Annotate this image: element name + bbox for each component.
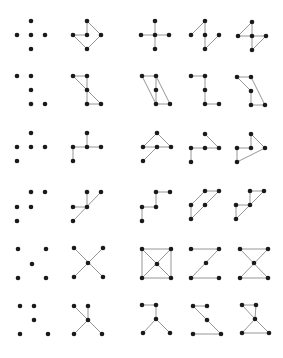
graph-vertex — [140, 247, 145, 252]
graph-vertex — [250, 34, 255, 39]
graph-vertex — [153, 33, 158, 38]
graph-edge — [73, 35, 87, 49]
graph-vertex — [85, 205, 90, 210]
graph-vertex — [189, 146, 194, 151]
graph-vertex — [100, 332, 105, 337]
graph-vertex — [266, 276, 271, 281]
panel-r3-c4 — [189, 132, 222, 165]
graph-vertex — [30, 262, 35, 267]
panel-r4-c2 — [71, 190, 104, 224]
panel-r3-c1 — [15, 131, 48, 164]
panel-r5-c4 — [189, 247, 222, 281]
graph-vertex — [16, 247, 21, 252]
graph-vertex — [71, 74, 76, 79]
graph-vertex — [217, 189, 222, 194]
graph-vertex — [18, 304, 23, 309]
graph-vertex — [217, 247, 222, 252]
graph-edge — [251, 134, 265, 148]
graph-vertex — [44, 247, 49, 252]
graph-vertex — [29, 33, 34, 38]
graph-vertex — [203, 189, 208, 194]
graph-edge — [255, 319, 269, 333]
panel-r2-c1 — [15, 74, 48, 107]
graph-vertex — [101, 275, 106, 280]
graph-vertex — [29, 88, 34, 93]
graph-vertex — [155, 262, 160, 267]
graph-vertex — [141, 159, 146, 164]
graph-edge — [74, 320, 88, 334]
graph-vertex — [72, 275, 77, 280]
graph-vertex — [15, 74, 20, 79]
graph-edge — [143, 319, 156, 333]
graph-vertex — [168, 102, 173, 107]
graph-vertex — [154, 190, 159, 195]
graph-edge — [205, 35, 219, 49]
graph-vertex — [86, 304, 91, 309]
graph-vertex — [248, 203, 253, 208]
graph-vertex — [141, 145, 146, 150]
graph-vertex — [238, 247, 243, 252]
panel-r1-c4 — [189, 19, 222, 52]
graph-vertex — [203, 132, 208, 137]
graph-vertex — [234, 217, 239, 222]
graph-vertex — [203, 203, 208, 208]
graph-vertex — [249, 103, 254, 108]
panel-r3-c3 — [141, 131, 174, 164]
graph-vertex — [189, 203, 194, 208]
graph-vertex — [204, 261, 209, 266]
graph-vertex — [15, 219, 20, 224]
graph-vertex — [203, 102, 208, 107]
graph-vertex — [71, 205, 76, 210]
graph-vertex — [219, 332, 224, 337]
graph-vertex — [189, 33, 194, 38]
graph-vertex — [71, 159, 76, 164]
graph-vertex — [266, 247, 271, 252]
graph-edge — [143, 147, 157, 161]
graph-vertex — [29, 145, 34, 150]
graph-vertex — [99, 145, 104, 150]
graph-vertex — [189, 74, 194, 79]
panel-r4-c1 — [15, 190, 48, 224]
graph-vertex — [99, 33, 104, 38]
graph-vertex — [249, 75, 254, 80]
graph-edge — [87, 21, 101, 35]
graph-configurations-diagram — [0, 0, 283, 358]
graph-vertex — [46, 332, 51, 337]
graph-vertex — [191, 304, 196, 309]
graph-vertex — [169, 145, 174, 150]
graph-vertex — [240, 331, 245, 336]
graph-vertex — [71, 145, 76, 150]
graph-vertex — [153, 47, 158, 52]
panel-r6-c2 — [72, 304, 105, 337]
panel-r6-c1 — [18, 304, 51, 337]
graph-vertex — [235, 160, 240, 165]
panel-r6-c3 — [140, 303, 173, 336]
panel-r1-c1 — [15, 19, 48, 52]
graph-vertex — [71, 219, 76, 224]
graph-vertex — [32, 318, 37, 323]
graph-vertex — [43, 33, 48, 38]
graph-edge — [157, 133, 171, 147]
graph-vertex — [249, 146, 254, 151]
graph-edge — [242, 305, 255, 319]
graph-vertex — [168, 331, 173, 336]
graph-vertex — [85, 33, 90, 38]
graph-vertex — [167, 33, 172, 38]
panel-r2-c5 — [235, 75, 268, 108]
graph-vertex — [235, 146, 240, 151]
graph-vertex — [85, 19, 90, 24]
graph-vertex — [43, 145, 48, 150]
panel-r3-c5 — [235, 132, 268, 165]
graph-vertex — [15, 145, 20, 150]
graph-vertex — [263, 146, 268, 151]
graph-edge — [237, 77, 251, 91]
graph-vertex — [29, 19, 34, 24]
graph-vertex — [141, 331, 146, 336]
graph-vertex — [203, 88, 208, 93]
graph-vertex — [217, 276, 222, 281]
graph-vertex — [71, 33, 76, 38]
panel-r5-c2 — [72, 246, 106, 280]
graph-vertex — [29, 205, 34, 210]
graph-vertex — [253, 317, 258, 322]
graph-vertex — [248, 189, 253, 194]
